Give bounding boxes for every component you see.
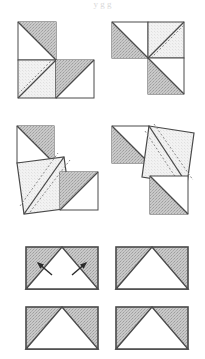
dissection-figure-svg [0, 0, 205, 359]
panel4-lower-right-square [150, 176, 188, 214]
panel1-upper-left-square [18, 22, 56, 60]
panel-bottom-right-upper [116, 247, 188, 289]
panel-top-right [112, 22, 184, 94]
panel1-lower-left-square [18, 60, 56, 98]
panel3-lower-right-square [60, 172, 98, 210]
panel-middle-right [112, 124, 194, 214]
panel-middle-left [17, 126, 98, 214]
cropped-header-text: y g g [0, 0, 205, 9]
panel-top-left [18, 22, 94, 98]
panel-bottom-left-upper [26, 247, 98, 289]
panel4-upper-left-square [112, 126, 149, 163]
figure-root: y g g [0, 0, 205, 359]
panel3-upper-left-square [17, 126, 54, 163]
panel2-upper-left-square [112, 22, 148, 58]
panel2-lower-right-square [148, 58, 184, 94]
panel2-upper-right-square [148, 22, 184, 58]
panel-bottom-right-lower [116, 307, 188, 349]
panel-bottom-left-lower [26, 307, 98, 349]
panel1-lower-right-square [56, 60, 94, 98]
